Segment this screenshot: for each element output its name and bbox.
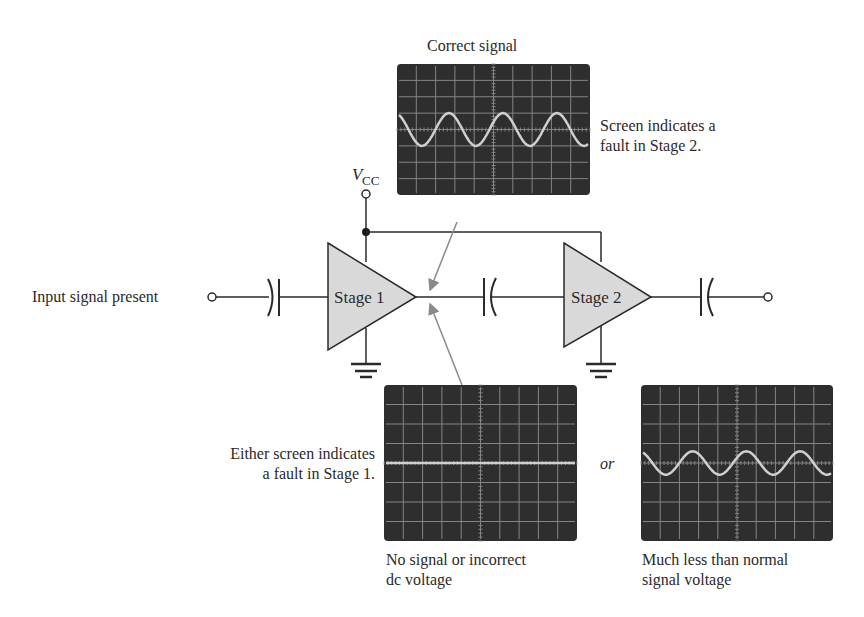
coupling-capacitor [416, 278, 564, 316]
correct-signal-caption: Correct signal [427, 36, 517, 55]
low-signal-caption-2: signal voltage [642, 570, 731, 589]
amplifier-diagram: V CC Stage 1 Stage 2 [0, 0, 864, 617]
stage1-fault-text-1: Either screen indicates [180, 444, 375, 463]
stage1-amplifier: Stage 1 [328, 243, 416, 377]
or-label: or [600, 454, 614, 473]
scope-correct-signal [397, 64, 590, 195]
svg-text:Stage 2: Stage 2 [571, 288, 622, 307]
stage1-fault-text-2: a fault in Stage 1. [180, 464, 375, 483]
stage2-fault-text-2: fault in Stage 2. [600, 136, 701, 155]
scope-low-signal [641, 385, 833, 541]
scope-no-signal [384, 385, 577, 541]
low-signal-caption-1: Much less than normal [642, 550, 788, 569]
output-terminal [764, 293, 772, 301]
stage2-amplifier: Stage 2 [564, 243, 651, 377]
input-terminal [208, 293, 269, 301]
ground-icon [351, 364, 381, 377]
arrow-from-fault-scope [430, 304, 462, 385]
svg-text:Stage 1: Stage 1 [334, 288, 385, 307]
input-capacitor [268, 279, 328, 316]
input-signal-label: Input signal present [32, 287, 158, 306]
probe-arrows [430, 222, 462, 385]
output-capacitor [651, 278, 772, 316]
stage2-fault-text-1: Screen indicates a [600, 116, 716, 135]
ground-icon [586, 364, 616, 377]
no-signal-caption-1: No signal or incorrect [386, 550, 526, 569]
svg-text:CC: CC [362, 173, 379, 188]
no-signal-caption-2: dc voltage [386, 570, 452, 589]
